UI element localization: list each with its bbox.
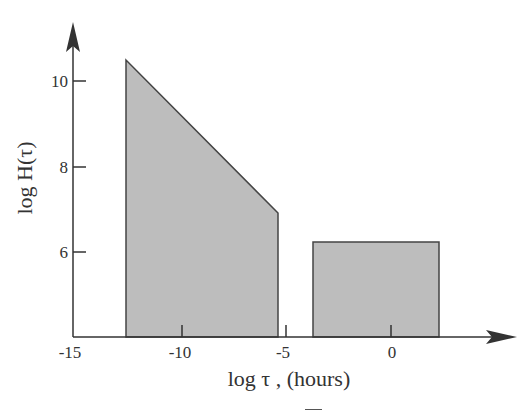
chart: 10 8 6 -15 -10 -5 0 log τ , (hours) log … [0, 0, 530, 410]
y-tick-label-10: 10 [51, 72, 68, 91]
region-2-shape [313, 242, 439, 337]
x-tick-label-minus10: -10 [169, 343, 192, 362]
x-tick-label-minus5: -5 [276, 343, 290, 362]
y-tick-label-8: 8 [60, 158, 69, 177]
x-tick-label-minus15: -15 [59, 343, 82, 362]
x-axis-label: log τ , (hours) [228, 366, 351, 391]
region-1-shape [126, 60, 278, 337]
x-tick-label-0: 0 [388, 343, 397, 362]
y-tick-label-6: 6 [60, 243, 69, 262]
y-axis-label: log H(τ) [12, 142, 37, 215]
